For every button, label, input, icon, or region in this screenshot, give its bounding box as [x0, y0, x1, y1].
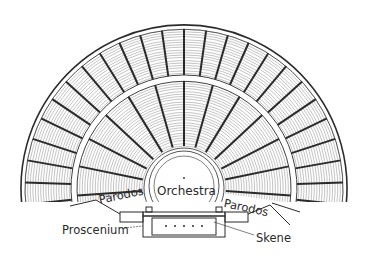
theatre-plan-diagram: Orchestra Parodos Parodos Proscenium Ske… — [0, 0, 366, 261]
label-skene: Skene — [256, 233, 291, 245]
label-proscenium: Proscenium — [62, 225, 129, 237]
label-orchestra: Orchestra — [157, 185, 216, 197]
theatre-plan-drawing — [0, 0, 366, 261]
